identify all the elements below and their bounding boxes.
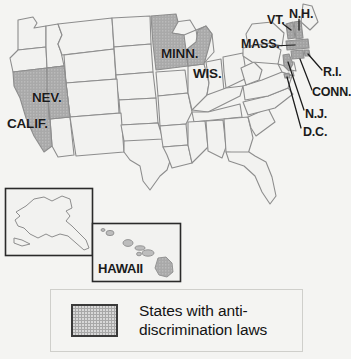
legend-label-line1: States with anti-: [139, 302, 267, 320]
hawaii-oahu: [123, 240, 133, 247]
state-label-vermont: VT.: [267, 14, 284, 27]
hawaii-maui: [142, 250, 154, 256]
map-legend: States with anti- discrimination laws: [50, 289, 303, 352]
state-label-california: CALIF.: [7, 117, 48, 131]
state-label-rhode-island: R.I.: [323, 66, 342, 79]
state-label-wisconsin: WIS.: [193, 67, 221, 81]
state-label-dc: D.C.: [303, 126, 327, 139]
state-label-nevada: NEV.: [32, 91, 61, 105]
state-label-new-jersey: N.J.: [305, 108, 327, 121]
legend-label: States with anti- discrimination laws: [139, 302, 267, 338]
state-label-hawaii: HAWAII: [98, 262, 143, 275]
hawaii-lanai: [137, 252, 142, 256]
hawaii-niihau: [101, 229, 105, 232]
state-label-connecticut: CONN.: [312, 86, 351, 99]
state-label-massachusetts: MASS.: [241, 38, 280, 51]
hawaii-molokai: [135, 246, 145, 250]
state-label-new-hampshire: N.H.: [289, 8, 313, 21]
legend-label-line2: discrimination laws: [139, 321, 267, 339]
us-anti-discrimination-law-map: MINN. WIS. NEV. CALIF. VT. N.H. MASS. R.…: [0, 0, 351, 359]
legend-swatch-shaded: [71, 304, 118, 337]
hawaii-kauai: [106, 230, 114, 235]
state-label-minnesota: MINN.: [161, 47, 198, 61]
